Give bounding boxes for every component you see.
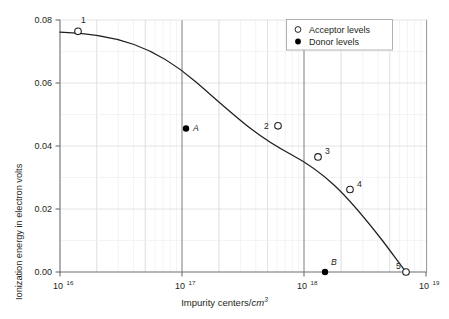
svg-text:17: 17 (189, 279, 196, 286)
open-circle-icon (295, 27, 301, 33)
y-tick-label: 0.04 (34, 141, 52, 151)
x-tick-label: 10 18 (297, 279, 318, 291)
svg-text:18: 18 (311, 279, 318, 286)
point-label-3: 3 (325, 146, 330, 156)
svg-text:10: 10 (175, 281, 185, 291)
data-point-acceptor[interactable] (315, 154, 322, 161)
svg-text:19: 19 (433, 279, 440, 286)
data-point-donor[interactable] (183, 125, 189, 131)
x-tick-label: 10 16 (53, 279, 74, 291)
x-tick-label: 10 19 (419, 279, 440, 291)
point-label-2: 2 (264, 121, 269, 131)
data-point-acceptor[interactable] (275, 123, 282, 130)
grid-major-horizontal (60, 83, 427, 209)
point-label-b: B (331, 257, 337, 267)
legend-label-acceptor: Acceptor levels (309, 25, 371, 35)
svg-text:16: 16 (67, 279, 74, 286)
x-axis-title: Impurity centers/cm3 (0, 296, 449, 308)
x-axis-title-unit: cm3 (251, 297, 267, 308)
svg-text:10: 10 (53, 281, 63, 291)
filled-circle-icon (295, 39, 301, 45)
x-axis-title-prefix: Impurity centers/ (181, 297, 251, 308)
point-label-1: 1 (81, 15, 86, 25)
x-axis-tick-labels: 10 16 10 17 10 18 10 19 (53, 279, 440, 291)
y-tick-label: 0.08 (34, 15, 52, 25)
svg-text:10: 10 (297, 281, 307, 291)
chart-figure: Ionization energy in electron volts Impu… (0, 0, 449, 319)
y-axis-ticks (56, 20, 61, 272)
y-axis-tick-labels: 0.08 0.06 0.04 0.02 0.00 (34, 15, 52, 277)
data-point-acceptor[interactable] (75, 28, 82, 35)
y-tick-label: 0.02 (34, 204, 52, 214)
y-tick-label: 0.00 (34, 267, 52, 277)
x-axis-ticks (60, 272, 426, 277)
data-point-acceptor[interactable] (403, 269, 410, 276)
data-point-acceptor[interactable] (347, 186, 354, 193)
svg-text:10: 10 (419, 281, 429, 291)
y-tick-label: 0.06 (34, 78, 52, 88)
legend-label-donor: Donor levels (309, 37, 360, 47)
series-acceptor-levels (75, 28, 410, 275)
chart-canvas: 0.08 0.06 0.04 0.02 0.00 10 16 10 17 10 (0, 0, 449, 319)
data-point-donor[interactable] (322, 269, 328, 275)
point-label-5: 5 (396, 261, 401, 271)
x-tick-label: 10 17 (175, 279, 196, 291)
trend-curve (60, 32, 406, 272)
y-axis-title: Ionization energy in electron volts (14, 0, 28, 300)
point-label-a: A (192, 123, 199, 133)
legend: Acceptor levels Donor levels (287, 20, 393, 51)
point-label-4: 4 (357, 179, 362, 189)
data-point-labels: 1 2 3 4 5 A B (81, 15, 401, 271)
